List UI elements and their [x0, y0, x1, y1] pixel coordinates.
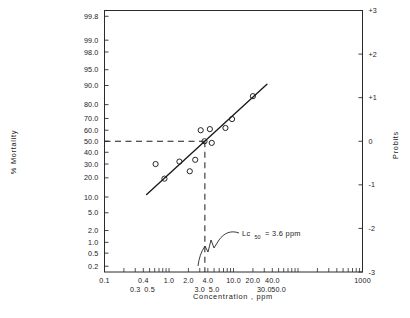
y-tick-label: 90.0: [84, 81, 99, 90]
y-tick-label: 80.0: [84, 100, 99, 109]
data-point: [153, 161, 158, 166]
y-tick-label: 99.8: [84, 12, 99, 21]
x-tick-label: 0.1: [99, 276, 109, 285]
x-tick-label: 1.0: [164, 276, 174, 285]
x-tick-label: 50.0: [271, 285, 286, 294]
data-point: [229, 116, 234, 121]
y-axis-title: % Mortality: [9, 130, 18, 174]
x-tick-label: 1000: [354, 276, 371, 285]
probit-tick-label: +3: [369, 6, 378, 15]
data-point-group: [153, 94, 256, 182]
plot-frame: [105, 11, 363, 273]
y-tick-label: 10.0: [84, 193, 99, 202]
lc50-annotation-subscript: 50: [255, 234, 261, 240]
data-point: [187, 169, 192, 174]
x-tick-label: 40.0: [265, 276, 280, 285]
y-tick-label: 30.0: [84, 160, 99, 169]
probit-axis-ticks: +3+2+10-1-2-3: [359, 6, 378, 277]
y-tick-label: 20.0: [84, 173, 99, 182]
lc50-annotation-main: Lc: [242, 229, 250, 238]
probit-tick-label: -2: [369, 224, 376, 233]
y-tick-label: 50.0: [84, 137, 99, 146]
probit-mortality-chart: 99.899.098.095.090.080.070.060.050.040.0…: [0, 0, 410, 318]
data-point: [198, 128, 203, 133]
probit-tick-label: -1: [369, 180, 376, 189]
x-tick-label: 0.3: [130, 285, 140, 294]
x-tick-label: 0.4: [138, 276, 148, 285]
data-point: [209, 140, 214, 145]
reference-lines: [105, 141, 205, 272]
probit-tick-label: 0: [369, 137, 373, 146]
lc50-annotation-value: = 3.6 ppm: [265, 229, 301, 238]
x-axis-title: Concentration , ppm: [193, 292, 273, 301]
y-tick-label: 99.0: [84, 36, 99, 45]
y-tick-label: 95.0: [84, 65, 99, 74]
y-tick-label: 60.0: [84, 126, 99, 135]
chart-svg: 99.899.098.095.090.080.070.060.050.040.0…: [0, 0, 410, 318]
y-tick-label: 5.0: [88, 208, 98, 217]
x-tick-label: 2.0: [183, 276, 193, 285]
data-point: [193, 157, 198, 162]
y-tick-label: 1.0: [88, 238, 98, 247]
y-tick-label: 0.2: [88, 262, 98, 271]
x-tick-label: 4.0: [203, 276, 213, 285]
x-tick-label: 20.0: [246, 276, 261, 285]
probit-axis-title: Probits: [391, 131, 400, 159]
y-tick-label: 40.0: [84, 148, 99, 157]
x-tick-label: 0.5: [144, 285, 154, 294]
data-point: [207, 127, 212, 132]
data-point: [177, 159, 182, 164]
y-tick-label: 0.5: [88, 249, 98, 258]
x-tick-label: 10.0: [226, 276, 241, 285]
y-tick-label: 98.0: [84, 48, 99, 57]
probit-tick-label: +2: [369, 50, 378, 59]
y-tick-label: 70.0: [84, 114, 99, 123]
y-tick-label: 2.0: [88, 226, 98, 235]
data-point: [223, 125, 228, 130]
lc50-leader-line: [198, 232, 239, 266]
probit-tick-label: +1: [369, 93, 378, 102]
